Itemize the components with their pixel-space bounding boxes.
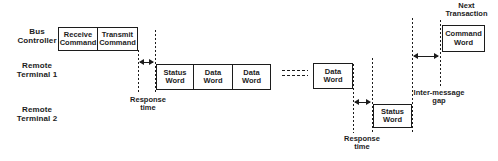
receive-command-box: Receive Command [58,27,98,51]
inter-message-gap-arrow [413,53,439,59]
continuation-dash-bottom [282,75,308,76]
continuation-dash-top [282,70,308,71]
response-time-1-arrow [139,59,154,65]
response-time-2-label: Response time [342,135,382,151]
rt1-status-word-box: Status Word [156,64,194,90]
arrow-shaft [355,102,370,103]
rt1-response-start-marker [155,30,156,94]
rt2-status-end-marker [412,18,413,133]
response-time-2-arrow [354,99,371,105]
response-time-1-label: Response time [128,96,168,112]
rt2-response-start-marker [372,58,373,133]
inter-message-gap-label: Inter-message gap [409,89,469,105]
rt1-data-word-2-box: Data Word [232,64,271,90]
lane-label-remote-terminal-2: Remote Terminal 2 [7,106,67,123]
next-transaction-label: Next Transaction [441,2,492,18]
next-command-word-box: Command Word [442,25,485,52]
rt2-status-word-box: Status Word [373,104,412,128]
arrow-shaft [414,56,438,57]
lane-label-remote-terminal-1: Remote Terminal 1 [7,62,67,79]
bc-message-end-marker [138,50,139,94]
arrow-shaft [140,62,153,63]
next-transaction-start-marker [440,20,441,88]
transmit-command-box: Transmit Command [97,27,138,51]
rt1-data-word-1-box: Data Word [193,64,233,90]
rt1-data-word-3-box: Data Word [313,63,353,89]
bus-timing-diagram: Bus Controller Remote Terminal 1 Remote … [0,0,498,161]
